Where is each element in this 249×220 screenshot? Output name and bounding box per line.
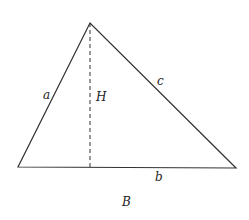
label-side-a: a <box>43 88 50 102</box>
label-caption-b: B <box>121 195 131 209</box>
label-side-b: b <box>155 170 163 184</box>
label-side-c: c <box>157 74 164 88</box>
triangle <box>18 23 236 168</box>
triangle-diagram: a H c b B <box>0 0 249 220</box>
label-altitude-h: H <box>95 90 107 104</box>
